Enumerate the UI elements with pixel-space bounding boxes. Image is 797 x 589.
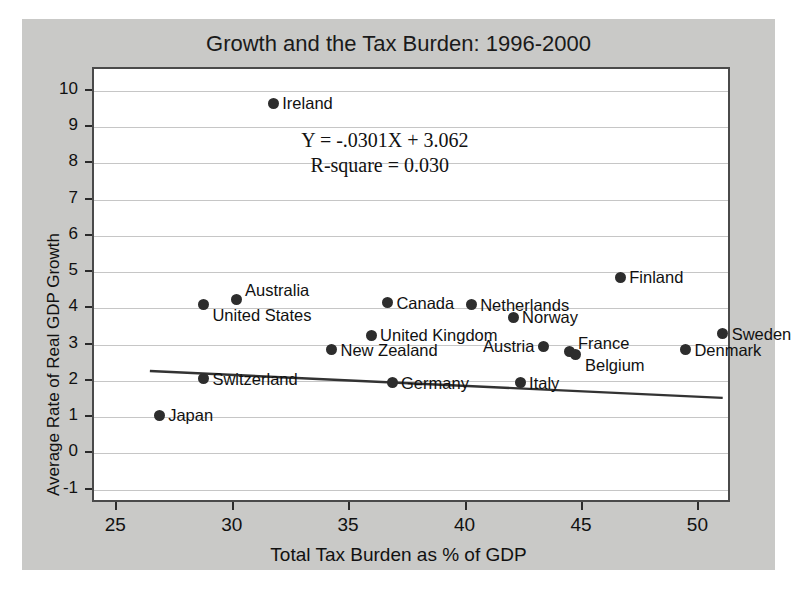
figure-canvas: Growth and the Tax Burden: 1996-2000 Ave… (0, 0, 797, 589)
y-tick-label--1: -1 (50, 478, 78, 498)
y-tick-mark--1 (85, 488, 92, 490)
data-point[interactable] (366, 330, 377, 341)
data-point[interactable] (198, 299, 209, 310)
point-label: France (578, 335, 629, 352)
y-tick-label-0: 0 (50, 441, 78, 461)
y-tick-mark-4 (85, 306, 92, 308)
y-tick-label-10: 10 (50, 79, 78, 99)
data-point[interactable] (615, 272, 626, 283)
y-tick-mark-9 (85, 125, 92, 127)
y-tick-label-5: 5 (50, 260, 78, 280)
y-tick-mark-2 (85, 379, 92, 381)
x-tick-label-50: 50 (672, 514, 722, 536)
x-tick-mark-50 (697, 502, 699, 510)
x-tick-label-40: 40 (440, 514, 490, 536)
y-tick-mark-5 (85, 270, 92, 272)
point-label: Finland (629, 269, 683, 286)
x-tick-mark-30 (232, 502, 234, 510)
r-square-label: R-square = 0.030 (311, 154, 449, 177)
y-tick-mark-1 (85, 415, 92, 417)
x-tick-label-25: 25 (90, 514, 140, 536)
point-label: Sweden (732, 326, 792, 343)
regression-equation-label: Y = -.0301X + 3.062 (301, 129, 468, 152)
point-label: Germany (401, 375, 469, 392)
point-label: Ireland (282, 95, 332, 112)
x-axis-title: Total Tax Burden as % of GDP (22, 544, 775, 566)
data-point[interactable] (538, 341, 549, 352)
data-point[interactable] (387, 377, 398, 388)
x-tick-mark-45 (581, 502, 583, 510)
x-tick-label-45: 45 (556, 514, 606, 536)
data-point[interactable] (268, 98, 279, 109)
y-tick-mark-0 (85, 451, 92, 453)
point-label: Belgium (585, 357, 645, 374)
y-tick-mark-6 (85, 234, 92, 236)
point-label: Denmark (694, 342, 761, 359)
y-tick-label-9: 9 (50, 115, 78, 135)
y-tick-label-3: 3 (50, 333, 78, 353)
x-tick-mark-40 (465, 502, 467, 510)
y-tick-label-7: 7 (50, 188, 78, 208)
point-label: Austria (483, 338, 534, 355)
point-label: Italy (529, 375, 559, 392)
y-tick-mark-3 (85, 343, 92, 345)
y-tick-label-8: 8 (50, 151, 78, 171)
data-point[interactable] (231, 294, 242, 305)
point-label: United States (212, 307, 311, 324)
y-tick-mark-7 (85, 198, 92, 200)
chart-title: Growth and the Tax Burden: 1996-2000 (22, 31, 775, 57)
chart-panel: Growth and the Tax Burden: 1996-2000 Ave… (22, 19, 775, 570)
plot-area: IrelandFinlandAustraliaUnited StatesCana… (92, 67, 730, 502)
y-tick-mark-8 (85, 161, 92, 163)
point-label: Japan (168, 407, 213, 424)
data-point[interactable] (466, 299, 477, 310)
x-tick-mark-35 (348, 502, 350, 510)
data-point[interactable] (154, 410, 165, 421)
x-tick-mark-25 (115, 502, 117, 510)
y-tick-label-6: 6 (50, 224, 78, 244)
point-label: Australia (245, 282, 309, 299)
y-tick-label-4: 4 (50, 296, 78, 316)
y-tick-label-1: 1 (50, 405, 78, 425)
point-label: Norway (522, 309, 578, 326)
y-tick-label-2: 2 (50, 369, 78, 389)
x-tick-label-30: 30 (207, 514, 257, 536)
x-tick-label-35: 35 (323, 514, 373, 536)
data-point[interactable] (508, 312, 519, 323)
y-tick-mark-10 (85, 89, 92, 91)
point-label: Canada (396, 295, 454, 312)
point-label: Switzerland (212, 371, 297, 388)
data-point[interactable] (515, 377, 526, 388)
point-label: New Zealand (341, 342, 438, 359)
